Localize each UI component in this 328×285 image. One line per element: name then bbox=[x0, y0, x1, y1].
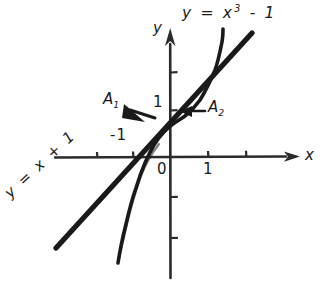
origin-label: 0 bbox=[157, 162, 167, 177]
x-tick-label-minus1: -1 bbox=[110, 128, 127, 143]
a1-pointer-arrow bbox=[122, 104, 155, 122]
region-a1-letter: A bbox=[103, 90, 113, 108]
y-axis-label: y bbox=[153, 21, 162, 36]
x-axis-label: x bbox=[305, 148, 314, 163]
y-tick-label-plus1: 1 bbox=[153, 95, 163, 110]
region-label-a1: A1 bbox=[103, 92, 119, 109]
graph-figure: y = x3 - 1 y = x + 1 x y -1 1 0 1 A1 A2 bbox=[0, 0, 328, 285]
cubic-equation-main: y = x bbox=[182, 4, 234, 22]
cubic-equation-tail: - 1 bbox=[243, 4, 277, 22]
cubic-equation-label: y = x3 - 1 bbox=[182, 4, 277, 22]
region-a2-subscript: 2 bbox=[218, 107, 224, 118]
y-axis bbox=[165, 28, 178, 278]
x-axis bbox=[55, 151, 300, 162]
region-a1-subscript: 1 bbox=[113, 99, 119, 110]
cubic-curve-wobble bbox=[119, 144, 159, 258]
region-label-a2: A2 bbox=[208, 100, 224, 117]
linear-curve-wobble bbox=[58, 35, 250, 246]
cubic-equation-exponent: 3 bbox=[234, 3, 242, 14]
linear-curve bbox=[56, 33, 252, 248]
x-tick-label-plus1: 1 bbox=[203, 162, 213, 177]
region-a2-letter: A bbox=[208, 98, 218, 116]
